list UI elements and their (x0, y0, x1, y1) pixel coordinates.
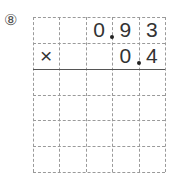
digit-cell: 9 (112, 17, 138, 43)
answer-cell[interactable] (139, 146, 165, 172)
answer-cell[interactable] (112, 146, 138, 172)
decimal-point (110, 35, 114, 39)
answer-cell[interactable] (139, 120, 165, 146)
answer-cell[interactable] (112, 120, 138, 146)
answer-cell[interactable] (139, 95, 165, 121)
digit-cell: 0 (86, 17, 112, 43)
answer-cell[interactable] (112, 95, 138, 121)
decimal-point (137, 61, 141, 65)
answer-cell[interactable] (33, 95, 59, 121)
problem-number-label: ⑧ (4, 12, 17, 28)
empty-cell (86, 43, 112, 69)
answer-cell[interactable] (86, 146, 112, 172)
digit-cell: 3 (139, 17, 165, 43)
digit-cell: 4 (139, 43, 165, 69)
answer-cell[interactable] (86, 69, 112, 95)
answer-cell[interactable] (33, 146, 59, 172)
answer-cell[interactable] (86, 120, 112, 146)
calculation-grid: 093×04 (33, 17, 165, 172)
answer-cell[interactable] (33, 69, 59, 95)
answer-cell[interactable] (86, 95, 112, 121)
answer-cell[interactable] (59, 120, 85, 146)
multiply-sign: × (33, 43, 59, 69)
empty-cell (33, 17, 59, 43)
answer-cell[interactable] (139, 69, 165, 95)
answer-cell[interactable] (59, 95, 85, 121)
answer-cell[interactable] (59, 69, 85, 95)
grid-vertical-line (165, 17, 166, 172)
answer-cell[interactable] (112, 69, 138, 95)
answer-cell[interactable] (59, 146, 85, 172)
empty-cell (59, 43, 85, 69)
answer-cell[interactable] (33, 120, 59, 146)
empty-cell (59, 17, 85, 43)
digit-cell: 0 (112, 43, 138, 69)
